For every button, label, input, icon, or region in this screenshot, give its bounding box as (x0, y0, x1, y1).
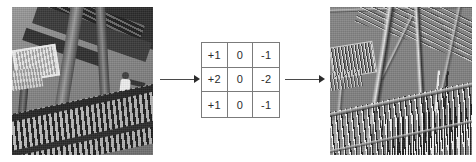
arrow-source-to-kernel (160, 74, 200, 84)
kernel-cell-r1c2: -2 (253, 68, 279, 93)
kernel-cell-r1c1: 0 (228, 68, 254, 93)
arrow-shaft (285, 79, 319, 80)
source-person-head (122, 72, 129, 79)
kernel-cell-r0c0: +1 (202, 43, 228, 68)
kernel-cell-r2c1: 0 (228, 92, 254, 117)
sobel-x-kernel: +1 0 -1 +2 0 -2 +1 0 -1 (201, 42, 280, 118)
result-image (330, 7, 472, 155)
arrow-shaft (160, 79, 194, 80)
kernel-cell-r0c1: 0 (228, 43, 254, 68)
arrow-kernel-to-result (285, 74, 325, 84)
source-image (12, 7, 153, 155)
convolution-figure: +1 0 -1 +2 0 -2 +1 0 -1 (0, 0, 476, 162)
kernel-cell-r2c2: -1 (253, 92, 279, 117)
kernel-cell-r1c0: +2 (202, 68, 228, 93)
kernel-cell-r0c2: -1 (253, 43, 279, 68)
arrow-head-icon (319, 75, 325, 83)
kernel-cell-r2c0: +1 (202, 92, 228, 117)
arrow-head-icon (194, 75, 200, 83)
